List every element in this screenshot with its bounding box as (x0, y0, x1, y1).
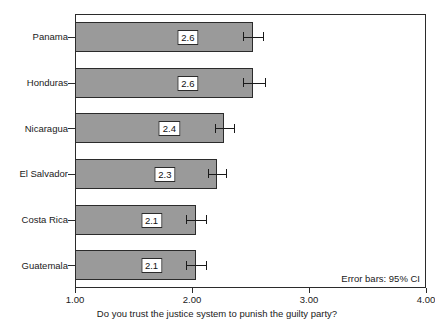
y-axis-tick (68, 265, 75, 266)
error-bar-cap (186, 261, 187, 270)
data-label-panama: 2.6 (177, 30, 198, 45)
error-bar (186, 220, 206, 221)
x-axis-tick-label: 2.00 (183, 294, 202, 305)
y-axis-label-honduras: Honduras (0, 77, 68, 88)
y-axis-label-nicaragua: Nicaragua (0, 123, 68, 134)
error-bar-cap (208, 169, 209, 178)
error-bar-cap (263, 32, 264, 41)
bar-honduras[interactable] (75, 68, 253, 98)
x-axis-tick-label: 4.00 (417, 294, 435, 305)
bar-costa-rica[interactable] (75, 205, 196, 235)
error-bar (243, 37, 263, 38)
y-axis-tick (68, 128, 75, 129)
error-bar-cap (243, 32, 244, 41)
error-bar-cap (234, 124, 235, 133)
data-label-honduras: 2.6 (177, 76, 198, 91)
data-label-nicaragua: 2.4 (159, 121, 180, 136)
y-axis-label-guatemala: Guatemala (0, 260, 68, 271)
error-bar-cap (243, 78, 244, 87)
y-axis-tick (68, 220, 75, 221)
x-axis-tick (192, 288, 193, 293)
x-axis-tick-label: 1.00 (66, 294, 85, 305)
bar-nicaragua[interactable] (75, 113, 224, 143)
x-axis-tick (75, 288, 76, 293)
data-label-el-salvador: 2.3 (154, 167, 175, 182)
x-axis-tick-label: 3.00 (300, 294, 319, 305)
y-axis-labels: Panama Honduras Nicaragua El Salvador Co… (0, 14, 68, 288)
error-bar-cap (226, 169, 227, 178)
error-bar (208, 174, 226, 175)
y-axis-label-costa-rica: Costa Rica (0, 214, 68, 225)
x-axis-title: Do you trust the justice system to punis… (0, 308, 434, 320)
data-label-costa-rica: 2.1 (141, 213, 162, 228)
y-axis-tick (68, 174, 75, 175)
y-axis-tick (68, 37, 75, 38)
error-bar-cap (186, 215, 187, 224)
error-bar-cap (206, 215, 207, 224)
x-axis-tick (309, 288, 310, 293)
data-label-guatemala: 2.1 (141, 258, 162, 273)
bar-panama[interactable] (75, 22, 253, 52)
error-bar-cap (265, 78, 266, 87)
y-axis-tick (68, 83, 75, 84)
bar-el-salvador[interactable] (75, 159, 217, 189)
error-bar (186, 265, 206, 266)
error-bar-cap (215, 124, 216, 133)
error-bar (243, 83, 264, 84)
bar-guatemala[interactable] (75, 250, 196, 280)
x-axis-tick (426, 288, 427, 293)
error-bars-note: Error bars: 95% CI (341, 273, 420, 284)
error-bar-cap (206, 261, 207, 270)
bars-layer: 2.6 2.6 2.4 2.3 2.1 2.1 Error bars: 95% … (75, 14, 426, 288)
y-axis-label-panama: Panama (0, 31, 68, 42)
error-bar (215, 128, 234, 129)
y-axis-label-el-salvador: El Salvador (0, 168, 68, 179)
x-axis: 1.00 2.00 3.00 4.00 (75, 288, 426, 308)
